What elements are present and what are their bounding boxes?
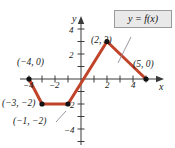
y-axis-arrowhead <box>78 16 84 24</box>
x-tick-label-2: 2 <box>105 81 110 90</box>
point-label-minus3-minus2: (−3, −2) <box>2 99 35 109</box>
y-tick-label-minus2: −2 <box>64 101 75 110</box>
x-tick-label-4: 4 <box>131 81 136 90</box>
label-leader-line <box>56 111 66 122</box>
point-label-minus4-0: (−4, 0) <box>17 58 44 68</box>
function-curve <box>29 42 146 105</box>
point-label-5-0: (5, 0) <box>133 60 154 70</box>
x-tick-label-minus4: −4 <box>23 81 34 90</box>
y-axis-label: y <box>72 14 76 24</box>
function-callout-box: y = f(x) <box>114 10 172 28</box>
vertex-marker <box>143 76 148 81</box>
point-label-2-3: (2, 3) <box>91 36 112 46</box>
y-tick-label-minus4: −4 <box>64 126 75 135</box>
function-graph-figure: y = f(x) (−4, 0) (−3, −2) (−1, −2) (2, 3… <box>0 0 175 148</box>
y-tick-label-2: 2 <box>69 51 74 60</box>
vertex-marker <box>39 101 44 106</box>
x-axis-label: x <box>159 82 163 92</box>
x-tick-label-minus2: −2 <box>49 81 60 90</box>
y-tick-label-4: 4 <box>69 26 74 35</box>
point-label-minus1-minus2: (−1, −2) <box>13 117 46 127</box>
